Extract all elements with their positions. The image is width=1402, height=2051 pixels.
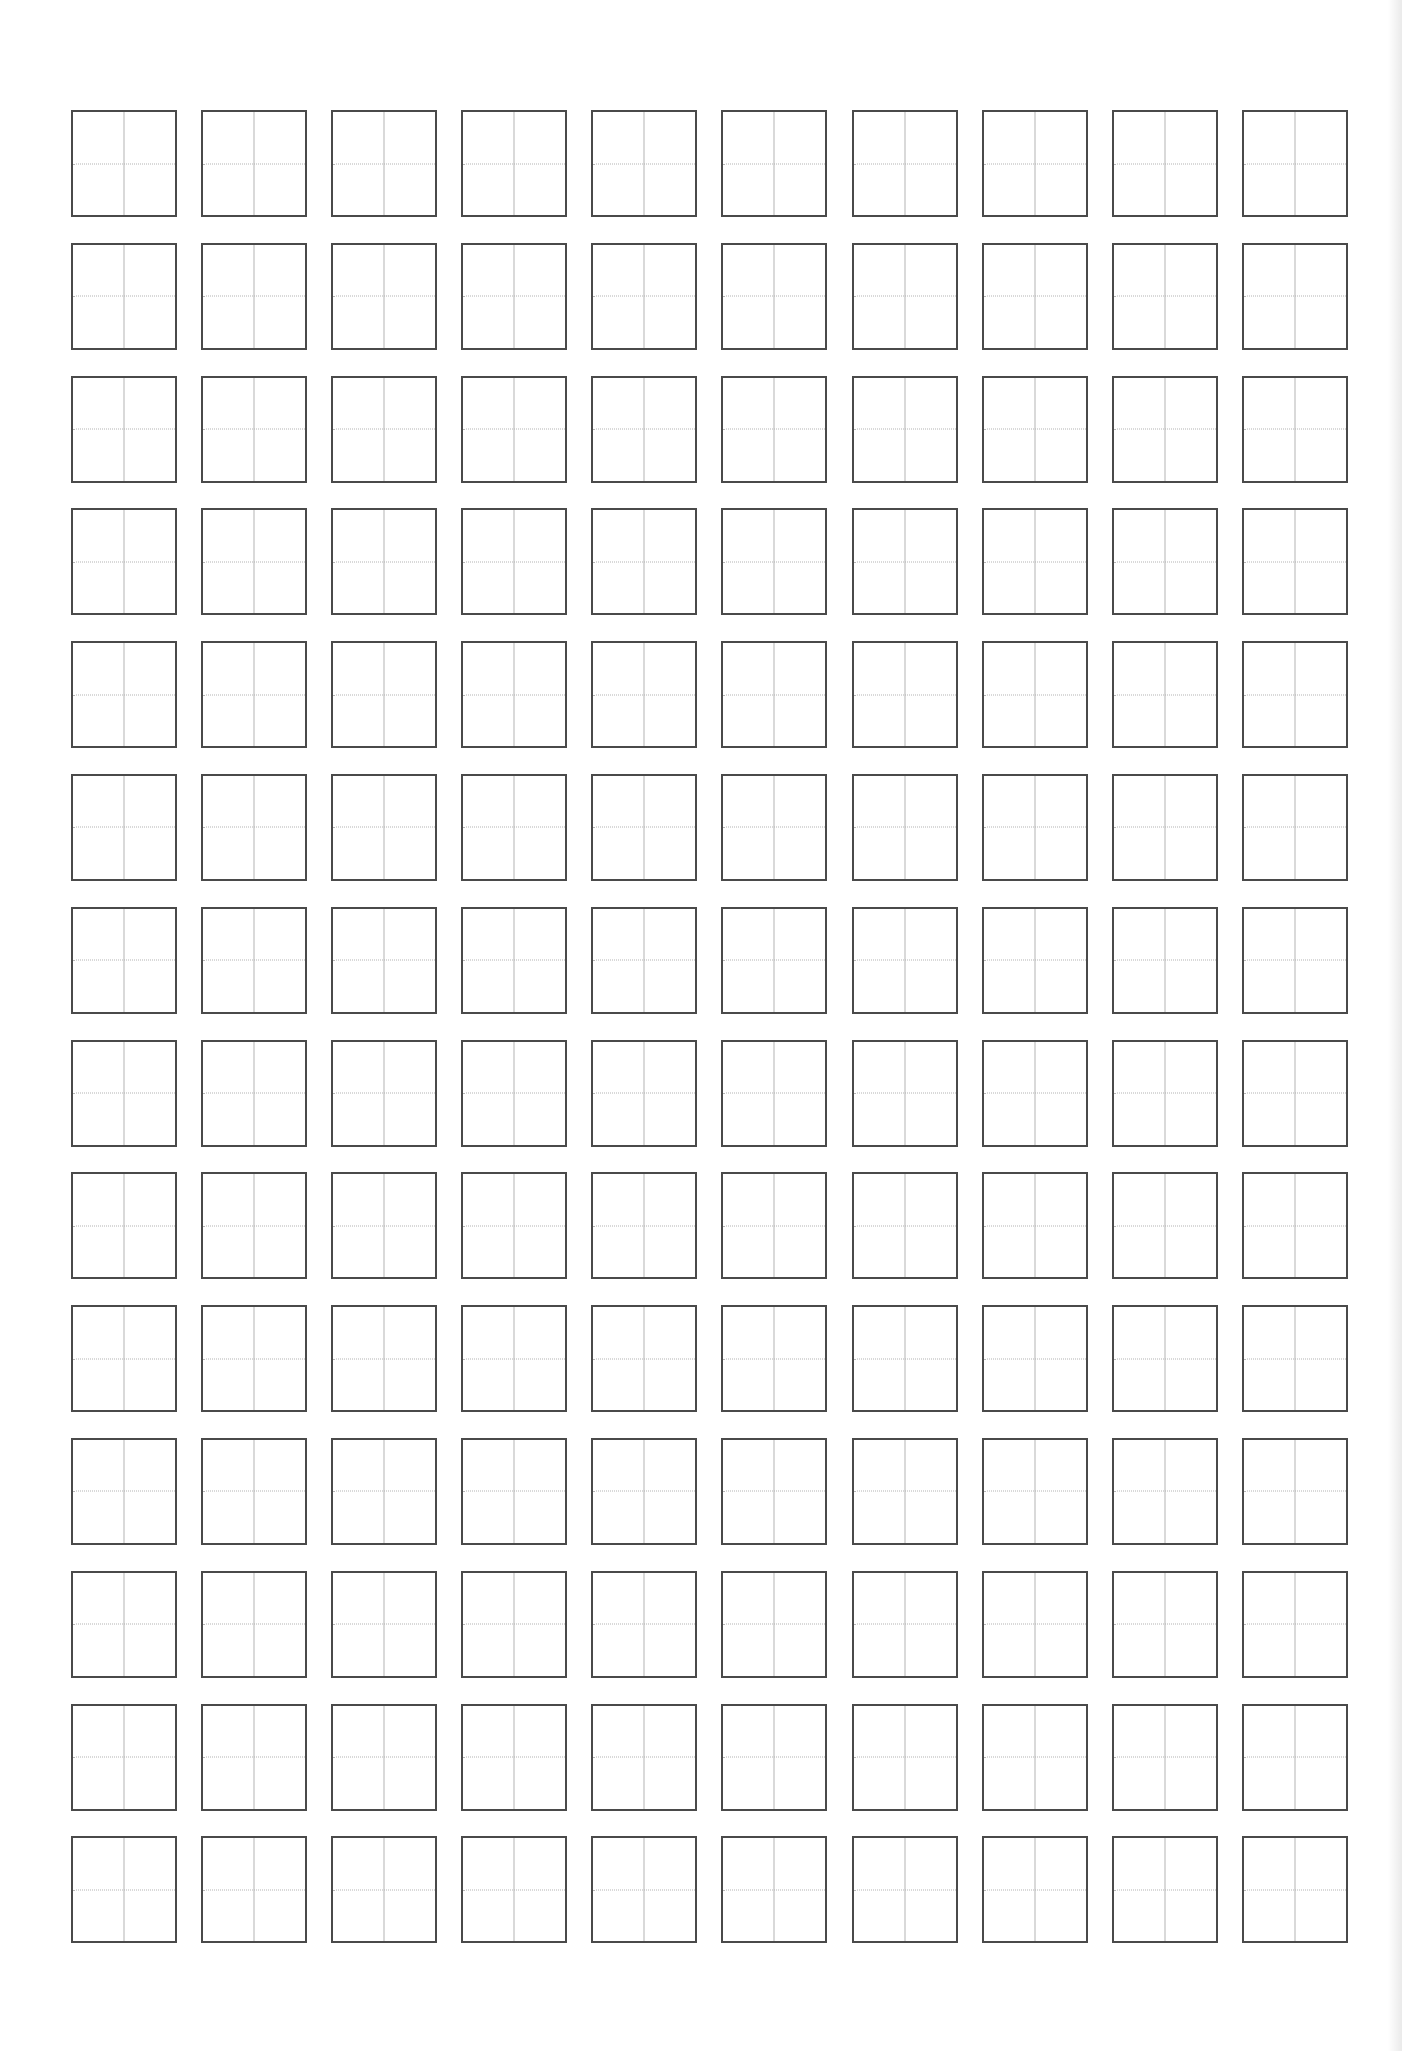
horizontal-guide-line bbox=[593, 296, 695, 297]
horizontal-guide-line bbox=[463, 163, 565, 164]
practice-cell bbox=[982, 243, 1088, 350]
practice-cell bbox=[1112, 1305, 1218, 1412]
horizontal-guide-line bbox=[1244, 1757, 1346, 1758]
practice-cell bbox=[982, 1704, 1088, 1811]
practice-cell bbox=[1242, 907, 1348, 1014]
practice-cell bbox=[852, 243, 958, 350]
horizontal-guide-line bbox=[854, 1093, 956, 1094]
horizontal-guide-line bbox=[203, 1491, 305, 1492]
practice-cell bbox=[591, 907, 697, 1014]
horizontal-guide-line bbox=[73, 429, 175, 430]
horizontal-guide-line bbox=[1114, 694, 1216, 695]
horizontal-guide-line bbox=[1244, 960, 1346, 961]
practice-cell bbox=[852, 110, 958, 217]
practice-cell bbox=[331, 110, 437, 217]
practice-cell bbox=[1112, 508, 1218, 615]
horizontal-guide-line bbox=[73, 1889, 175, 1890]
practice-cell bbox=[461, 508, 567, 615]
practice-cell bbox=[461, 641, 567, 748]
practice-cell bbox=[1242, 774, 1348, 881]
practice-cell bbox=[201, 641, 307, 748]
horizontal-guide-line bbox=[593, 163, 695, 164]
practice-cell bbox=[71, 907, 177, 1014]
horizontal-guide-line bbox=[1114, 960, 1216, 961]
horizontal-guide-line bbox=[723, 1491, 825, 1492]
practice-cell bbox=[852, 907, 958, 1014]
practice-cell bbox=[721, 1172, 827, 1279]
practice-cell bbox=[461, 1438, 567, 1545]
practice-cell bbox=[71, 641, 177, 748]
practice-cell bbox=[852, 1040, 958, 1147]
practice-cell bbox=[71, 1040, 177, 1147]
horizontal-guide-line bbox=[1114, 827, 1216, 828]
practice-cell bbox=[461, 907, 567, 1014]
practice-cell bbox=[1112, 1571, 1218, 1678]
practice-cell bbox=[591, 376, 697, 483]
practice-cell bbox=[331, 243, 437, 350]
horizontal-guide-line bbox=[1244, 827, 1346, 828]
practice-cell bbox=[331, 1438, 437, 1545]
practice-cell bbox=[201, 376, 307, 483]
practice-cell bbox=[721, 907, 827, 1014]
horizontal-guide-line bbox=[723, 827, 825, 828]
horizontal-guide-line bbox=[73, 1093, 175, 1094]
practice-cell bbox=[721, 110, 827, 217]
practice-cell bbox=[982, 641, 1088, 748]
practice-cell bbox=[852, 1172, 958, 1279]
horizontal-guide-line bbox=[723, 1624, 825, 1625]
practice-cell bbox=[591, 1571, 697, 1678]
practice-cell bbox=[201, 243, 307, 350]
practice-cell bbox=[591, 1305, 697, 1412]
practice-cell bbox=[982, 376, 1088, 483]
practice-cell bbox=[461, 376, 567, 483]
horizontal-guide-line bbox=[463, 561, 565, 562]
practice-cell bbox=[852, 1836, 958, 1943]
horizontal-guide-line bbox=[723, 1225, 825, 1226]
horizontal-guide-line bbox=[593, 1225, 695, 1226]
horizontal-guide-line bbox=[1114, 1757, 1216, 1758]
horizontal-guide-line bbox=[854, 1757, 956, 1758]
horizontal-guide-line bbox=[463, 1491, 565, 1492]
practice-cell bbox=[591, 243, 697, 350]
practice-cell bbox=[721, 376, 827, 483]
practice-cell bbox=[852, 1571, 958, 1678]
practice-cell bbox=[461, 1172, 567, 1279]
horizontal-guide-line bbox=[1244, 1624, 1346, 1625]
horizontal-guide-line bbox=[203, 1624, 305, 1625]
horizontal-guide-line bbox=[203, 163, 305, 164]
practice-cell bbox=[201, 1305, 307, 1412]
horizontal-guide-line bbox=[1114, 1491, 1216, 1492]
horizontal-guide-line bbox=[1244, 296, 1346, 297]
practice-cell bbox=[201, 508, 307, 615]
practice-cell bbox=[1112, 376, 1218, 483]
practice-cell bbox=[461, 1704, 567, 1811]
horizontal-guide-line bbox=[73, 163, 175, 164]
horizontal-guide-line bbox=[984, 296, 1086, 297]
horizontal-guide-line bbox=[723, 1093, 825, 1094]
practice-cell bbox=[1112, 1704, 1218, 1811]
practice-cell bbox=[1242, 1704, 1348, 1811]
horizontal-guide-line bbox=[984, 960, 1086, 961]
horizontal-guide-line bbox=[333, 694, 435, 695]
horizontal-guide-line bbox=[73, 694, 175, 695]
practice-cell bbox=[201, 1836, 307, 1943]
practice-cell bbox=[982, 1172, 1088, 1279]
horizontal-guide-line bbox=[854, 694, 956, 695]
horizontal-guide-line bbox=[854, 960, 956, 961]
horizontal-guide-line bbox=[723, 694, 825, 695]
horizontal-guide-line bbox=[73, 960, 175, 961]
practice-cell bbox=[1242, 1040, 1348, 1147]
horizontal-guide-line bbox=[723, 561, 825, 562]
horizontal-guide-line bbox=[333, 163, 435, 164]
horizontal-guide-line bbox=[333, 960, 435, 961]
practice-cell bbox=[982, 1040, 1088, 1147]
horizontal-guide-line bbox=[463, 1889, 565, 1890]
horizontal-guide-line bbox=[854, 1624, 956, 1625]
horizontal-guide-line bbox=[984, 1624, 1086, 1625]
practice-cell bbox=[201, 1040, 307, 1147]
horizontal-guide-line bbox=[1114, 1358, 1216, 1359]
practice-cell bbox=[591, 1704, 697, 1811]
horizontal-guide-line bbox=[203, 1225, 305, 1226]
practice-cell bbox=[591, 774, 697, 881]
horizontal-guide-line bbox=[1244, 694, 1346, 695]
